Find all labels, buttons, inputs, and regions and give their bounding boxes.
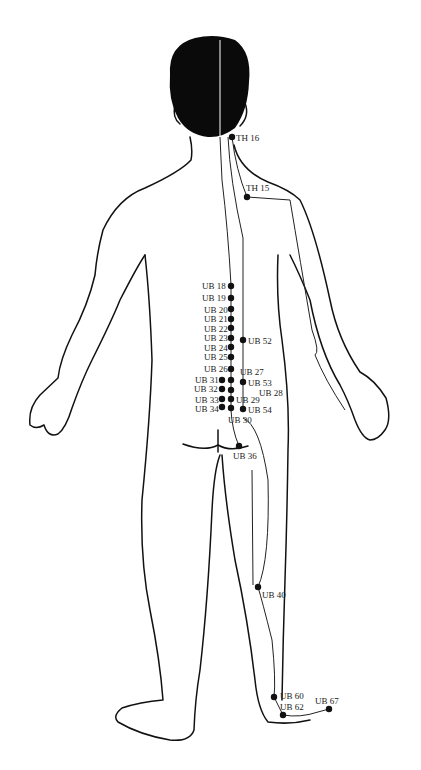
- hair: [170, 36, 250, 137]
- point-marker-ub36: [236, 443, 242, 449]
- point-label-ub18: UB 18: [202, 281, 226, 291]
- point-marker-ub25: [228, 354, 234, 360]
- point-marker-ub32: [219, 386, 225, 392]
- point-label-ub28: UB 28: [259, 388, 283, 398]
- point-marker-ub23: [228, 335, 234, 341]
- point-label-ub21: UB 21: [204, 314, 228, 324]
- point-marker-th16: [229, 134, 235, 140]
- point-marker-ub30: [228, 405, 234, 411]
- point-marker-ub27: [228, 377, 234, 383]
- point-label-ub60: UB 60: [280, 691, 304, 701]
- point-label-ub40: UB 40: [262, 590, 286, 600]
- point-marker-ub21: [228, 316, 234, 322]
- point-label-ub23: UB 23: [204, 333, 228, 343]
- point-marker-ub40: [255, 584, 261, 590]
- point-marker-ub18: [228, 283, 234, 289]
- meridian-lines: [220, 137, 345, 716]
- point-label-ub62: UB 62: [280, 702, 304, 712]
- point-marker-ub29: [228, 396, 234, 402]
- point-label-ub52: UB 52: [248, 336, 272, 346]
- point-label-th16: TH 16: [236, 133, 259, 143]
- point-label-ub26: UB 26: [204, 364, 228, 374]
- point-marker-ub62: [280, 712, 286, 718]
- point-marker-ub52: [240, 337, 246, 343]
- body-outline: [30, 137, 389, 740]
- point-marker-ub26: [228, 366, 234, 372]
- point-label-ub36: UB 36: [233, 451, 257, 461]
- point-marker-ub20: [228, 306, 234, 312]
- point-marker-ub22: [228, 325, 234, 331]
- point-marker-ub53: [240, 379, 246, 385]
- point-label-ub53: UB 53: [248, 378, 272, 388]
- point-marker-ub28: [228, 387, 234, 393]
- point-marker-ub19: [228, 295, 234, 301]
- point-label-th15: TH 15: [246, 183, 269, 193]
- point-label-ub19: UB 19: [202, 293, 226, 303]
- point-marker-ub24: [228, 344, 234, 350]
- point-marker-ub60: [271, 694, 277, 700]
- point-label-ub29: UB 29: [236, 395, 260, 405]
- acupuncture-points: [219, 134, 332, 718]
- point-label-ub34: UB 34: [195, 404, 219, 414]
- point-marker-ub33: [219, 396, 225, 402]
- point-label-ub30: UB 30: [228, 415, 252, 425]
- head: [170, 36, 250, 137]
- point-marker-ub54: [240, 406, 246, 412]
- point-marker-th15: [244, 194, 250, 200]
- point-label-ub54: UB 54: [248, 405, 272, 415]
- point-marker-ub31: [219, 377, 225, 383]
- point-label-ub25: UB 25: [204, 352, 228, 362]
- point-marker-ub67: [326, 706, 332, 712]
- point-marker-ub34: [219, 404, 225, 410]
- point-label-ub27: UB 27: [240, 367, 264, 377]
- point-label-ub32: UB 32: [194, 384, 218, 394]
- point-label-ub67: UB 67: [315, 696, 339, 706]
